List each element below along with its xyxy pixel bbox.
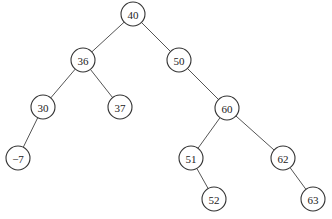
edge-n36-n30: [51, 69, 75, 98]
edge-n40-n50: [141, 22, 170, 51]
tree-node: 60: [215, 96, 239, 120]
edge-n50-n60: [187, 68, 218, 99]
tree-node: 37: [108, 95, 132, 119]
tree-edges: [23, 22, 306, 189]
node-label: 30: [38, 102, 50, 114]
node-label: 60: [222, 103, 234, 115]
tree-node: 36: [71, 48, 95, 72]
node-label: 50: [174, 55, 186, 67]
edge-n60-n62: [236, 116, 274, 150]
node-label: 40: [128, 9, 140, 21]
tree-canvas: 403650303760−751625263: [0, 0, 332, 219]
node-label: 62: [278, 153, 289, 165]
node-label: 51: [186, 153, 197, 165]
node-label: 36: [78, 55, 90, 67]
edge-n36-n37: [90, 69, 112, 97]
tree-node: 63: [301, 187, 325, 211]
tree-node: 50: [167, 48, 191, 72]
tree-node: 40: [121, 2, 145, 26]
edge-n40-n36: [92, 22, 124, 52]
tree-nodes: 403650303760−751625263: [6, 2, 325, 211]
edge-n30-nm7: [23, 118, 37, 147]
edge-n62-n63: [290, 168, 306, 190]
node-label: 37: [115, 102, 127, 114]
node-label: 52: [209, 194, 220, 206]
tree-node: 52: [202, 187, 226, 211]
bst-diagram: 403650303760−751625263: [0, 0, 332, 219]
tree-node: 62: [271, 146, 295, 170]
tree-node: 51: [179, 146, 203, 170]
node-label: −7: [12, 153, 24, 165]
tree-node: −7: [6, 146, 30, 170]
edge-n60-n51: [198, 118, 220, 149]
tree-node: 30: [31, 95, 55, 119]
node-label: 63: [308, 194, 320, 206]
edge-n51-n52: [197, 168, 208, 188]
